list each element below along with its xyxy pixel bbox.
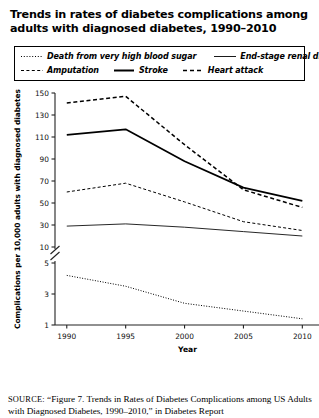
source-prefix: SOURCE: [8, 395, 45, 404]
y-tick-label: 30 [40, 221, 50, 230]
legend-item-end-stage-renal-disease: End-stage renal disease [214, 52, 319, 61]
legend-item-amputation: Amputation [21, 66, 99, 75]
series-line-heart-attack [67, 96, 303, 207]
legend-row-2: Amputation Stroke Heart attack [21, 66, 298, 75]
y-tick-label: 10 [40, 243, 50, 252]
x-tick-label: 1995 [116, 332, 135, 341]
legend-label: Stroke [139, 66, 168, 75]
chart-area: 1030507090110130150135 19901995200020052… [8, 87, 311, 355]
y-tick-label: 70 [40, 177, 50, 186]
x-tick-label: 2005 [234, 332, 253, 341]
series-line-end-stage-renal-disease [67, 224, 303, 236]
y-tick-label: 3 [44, 290, 49, 299]
y-tick-label: 130 [35, 111, 49, 120]
series-line-death-from-very-high-blood-sugar [67, 275, 303, 318]
legend-swatch-dotted-icon [21, 53, 43, 60]
y-axis-title: Complications per 10,000 adults with dia… [13, 88, 22, 329]
y-tick-label: 90 [40, 155, 50, 164]
x-tick-label: 2000 [175, 332, 194, 341]
page-title: Trends in rates of diabetes complication… [10, 8, 309, 35]
legend-label: Death from very high blood sugar [47, 52, 196, 61]
legend-row-1: Death from very high blood sugar End-sta… [21, 52, 298, 61]
y-tick-label: 110 [35, 133, 49, 142]
y-axis: 1030507090110130150135 [35, 89, 60, 330]
y-tick-label: 5 [44, 259, 49, 268]
series-line-stroke [67, 129, 303, 201]
figure-page: Trends in rates of diabetes complication… [0, 0, 319, 418]
series-line-amputation [67, 183, 303, 230]
legend-swatch-dashed-fine-icon [21, 67, 43, 74]
y-axis-title-text: Complications per 10,000 adults with dia… [13, 88, 22, 329]
legend-swatch-solid-thin-icon [214, 53, 236, 60]
x-axis: 19901995200020052010 [55, 325, 319, 341]
source-text: “Figure 7. Trends in Rates of Diabetes C… [47, 394, 271, 404]
series-lines [67, 96, 303, 318]
line-chart: 1030507090110130150135 19901995200020052… [8, 87, 319, 355]
x-axis-title: Year [177, 345, 197, 354]
x-tick-label: 2010 [293, 332, 312, 341]
legend-label: Amputation [47, 66, 99, 75]
y-tick-label: 1 [44, 321, 49, 330]
chart-legend: Death from very high blood sugar End-sta… [14, 46, 305, 81]
legend-label: End-stage renal disease [240, 52, 319, 61]
y-tick-label: 50 [40, 199, 50, 208]
y-tick-label: 150 [35, 89, 49, 98]
legend-swatch-dashed-bold-icon [182, 67, 204, 74]
legend-item-heart-attack: Heart attack [182, 66, 263, 75]
source-note: SOURCE: “Figure 7. Trends in Rates of Di… [8, 394, 313, 417]
legend-item-stroke: Stroke [113, 66, 168, 75]
legend-item-death-high-blood-sugar: Death from very high blood sugar [21, 52, 196, 61]
legend-swatch-solid-thick-icon [113, 67, 135, 74]
x-tick-label: 1990 [57, 332, 76, 341]
legend-label: Heart attack [208, 66, 263, 75]
